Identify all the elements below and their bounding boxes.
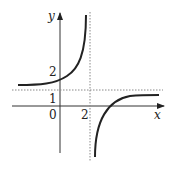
function-graph: y x 2 1 0 2 <box>0 0 172 170</box>
y-tick-1-label: 1 <box>49 93 57 105</box>
graph-canvas <box>0 0 172 170</box>
y-tick-2-label: 2 <box>49 66 57 78</box>
x-axis-label: x <box>154 109 161 121</box>
x-tick-2-label: 2 <box>81 109 89 121</box>
origin-label: 0 <box>49 109 57 121</box>
curve-right-branch <box>95 95 159 157</box>
y-axis-label: y <box>48 10 55 22</box>
